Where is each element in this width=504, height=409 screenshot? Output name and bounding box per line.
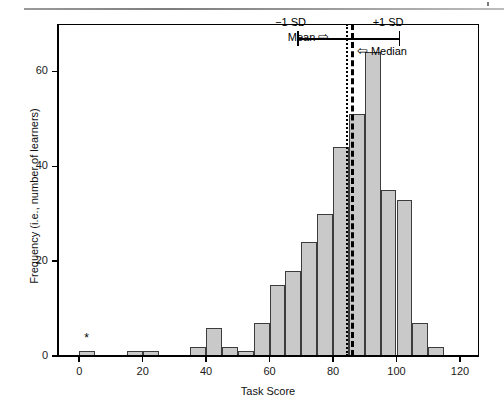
histogram-bar bbox=[206, 328, 222, 356]
histogram-bar bbox=[397, 200, 413, 357]
x-axis-tick-label: 0 bbox=[59, 365, 99, 377]
page-header-rule bbox=[24, 8, 504, 10]
y-axis-line bbox=[57, 24, 59, 356]
histogram-bar bbox=[285, 271, 301, 356]
median-annotation: ⇦ Median bbox=[357, 45, 407, 57]
histogram-bar bbox=[270, 285, 286, 356]
mean-reference-line bbox=[346, 24, 348, 356]
x-axis-tick-label: 80 bbox=[313, 365, 353, 377]
x-axis-tick bbox=[205, 356, 207, 362]
x-axis-tick bbox=[269, 356, 271, 362]
x-axis-tick bbox=[459, 356, 461, 362]
mean-annotation-label: Mean bbox=[288, 31, 316, 43]
histogram-figure: 0204060 020406080100120 Frequency (i.e.,… bbox=[0, 0, 504, 409]
y-axis-tick-label: 0 bbox=[22, 350, 48, 361]
x-axis-tick-label: 20 bbox=[123, 365, 163, 377]
x-axis-tick bbox=[78, 356, 80, 362]
histogram-bar bbox=[301, 242, 317, 356]
median-reference-line bbox=[351, 24, 354, 356]
x-axis-tick bbox=[396, 356, 398, 362]
histogram-bar bbox=[412, 323, 428, 356]
plus-one-sd-label: +1 SD bbox=[373, 16, 404, 28]
y-axis-label: Frequency (i.e., number of learners) bbox=[28, 76, 40, 316]
x-axis-tick bbox=[332, 356, 334, 362]
mean-arrow-icon: ⇨ bbox=[318, 29, 329, 44]
minus-one-sd-label: −1 SD bbox=[275, 16, 306, 28]
y-axis-tick-label: 60 bbox=[22, 65, 48, 76]
x-axis-tick bbox=[142, 356, 144, 362]
page-header-tick bbox=[487, 2, 489, 6]
histogram-bar bbox=[381, 190, 397, 356]
y-axis-tick bbox=[52, 71, 57, 73]
y-axis-tick bbox=[52, 166, 57, 168]
mean-annotation: Mean ⇨ bbox=[288, 31, 330, 43]
asterisk-marker: * bbox=[84, 333, 89, 343]
x-axis-tick-label: 60 bbox=[250, 365, 290, 377]
y-axis-tick bbox=[52, 260, 57, 262]
histogram-bar bbox=[254, 323, 270, 356]
histogram-bar bbox=[317, 214, 333, 356]
histogram-bar bbox=[365, 52, 381, 356]
x-axis-tick-label: 120 bbox=[440, 365, 480, 377]
median-annotation-label: Median bbox=[371, 45, 407, 57]
x-axis-label: Task Score bbox=[57, 385, 479, 397]
y-axis-tick bbox=[52, 355, 57, 357]
standard-deviation-cap-high bbox=[399, 31, 401, 46]
x-axis-tick-label: 100 bbox=[377, 365, 417, 377]
median-arrow-icon: ⇦ bbox=[357, 43, 368, 58]
histogram-bars bbox=[57, 24, 479, 356]
x-axis-tick-label: 40 bbox=[186, 365, 226, 377]
